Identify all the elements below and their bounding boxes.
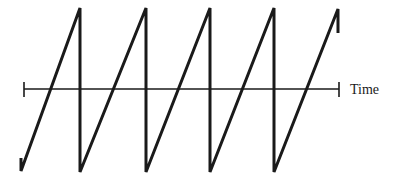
time-axis-label: Time (350, 82, 379, 98)
sawtooth-diagram (0, 0, 399, 179)
sawtooth-waveform (21, 8, 338, 172)
